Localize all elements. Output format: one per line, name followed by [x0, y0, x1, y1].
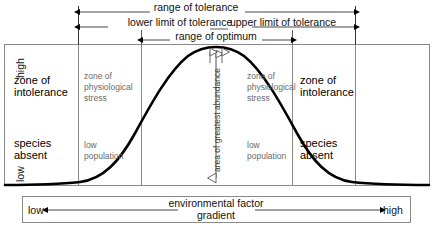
- zone-right-outer-status: species absent: [300, 137, 337, 162]
- label-range-of-optimum: range of optimum: [175, 31, 257, 43]
- zone-left-outer-title: zone of intolerance: [14, 74, 68, 99]
- y-axis-label-low: low: [15, 166, 27, 182]
- gradient-caption: environmental factor gradient: [168, 198, 263, 222]
- label-area-of-greatest-abundance: area of greatest abundance: [213, 68, 223, 172]
- zone-left-inner-title: zone of physiological stress: [84, 71, 133, 104]
- zone-right-inner-status: low population: [247, 140, 286, 162]
- tolerance-diagram: range of tolerance lower limit of tolera…: [0, 0, 434, 229]
- zone-right-outer-title: zone of intolerance: [300, 74, 354, 99]
- label-upper-limit-of-tolerance: upper limit of tolerance: [230, 17, 336, 29]
- zone-right-inner-title: zone of physiological stress: [247, 71, 296, 104]
- gradient-label-low: low: [28, 205, 44, 217]
- zone-left-outer-status: species absent: [14, 137, 51, 162]
- label-range-of-tolerance: range of tolerance: [154, 2, 239, 14]
- label-lower-limit-of-tolerance: lower limit of tolerance: [128, 17, 232, 29]
- gradient-label-high: high: [383, 205, 403, 217]
- zone-left-inner-status: low population: [84, 140, 123, 162]
